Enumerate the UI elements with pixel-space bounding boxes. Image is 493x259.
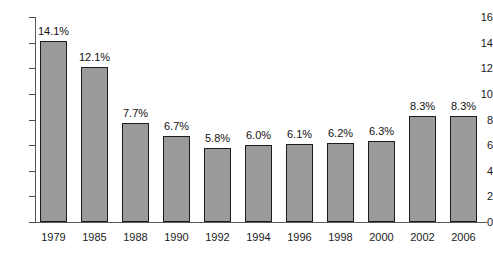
bar [450,116,477,222]
bar [204,148,231,222]
x-axis-tick-label: 1990 [157,231,197,243]
x-axis-tick-label: 1992 [198,231,238,243]
x-axis-tick-label: 1988 [116,231,156,243]
x-axis-tick-label: 2000 [362,231,402,243]
bar-value-label: 6.1% [280,129,320,140]
bar [409,116,436,222]
bar [286,144,313,222]
x-axis-tick-label: 1998 [321,231,361,243]
bar-value-label: 7.7% [116,108,156,119]
bar-value-label: 6.0% [239,130,279,141]
bar-value-label: 8.3% [444,101,484,112]
bar-value-label: 6.3% [362,126,402,137]
x-axis-tick-label: 1979 [34,231,74,243]
bar [368,141,395,222]
bar-chart: 0246810121416 14.1%12.1%7.7%6.7%5.8%6.0%… [0,0,493,259]
bar [327,143,354,222]
bar [245,145,272,222]
bar [122,123,149,222]
x-axis-tick-label: 1985 [75,231,115,243]
bar-value-label: 14.1% [34,26,74,37]
x-axis-tick-label: 2002 [403,231,443,243]
bar-value-label: 6.2% [321,128,361,139]
x-axis-tick-label: 1994 [239,231,279,243]
bar [40,41,67,222]
x-axis-tick-label: 2006 [444,231,484,243]
bar-value-label: 12.1% [75,52,115,63]
bar [81,67,108,222]
bar [163,136,190,222]
bar-value-label: 5.8% [198,133,238,144]
bar-value-label: 6.7% [157,121,197,132]
x-axis-tick-label: 1996 [280,231,320,243]
bars-layer: 14.1%12.1%7.7%6.7%5.8%6.0%6.1%6.2%6.3%8.… [0,0,493,259]
bar-value-label: 8.3% [403,101,443,112]
